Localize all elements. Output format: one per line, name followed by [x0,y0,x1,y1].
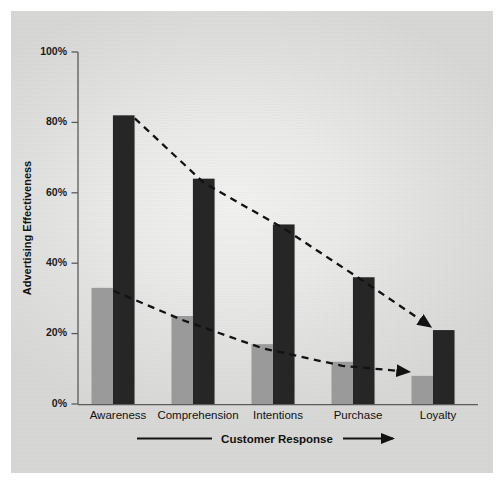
y-axis-title: Advertising Effectiveness [21,161,33,296]
bar-gray-loyalty [412,376,434,404]
x-category-labels: AwarenessComprehensionIntentionsPurchase… [90,409,457,421]
y-tick-label-80: 80% [46,115,68,127]
bar-dark-loyalty [433,330,455,404]
bar-dark-intentions [273,224,295,404]
bar-gray-awareness [92,288,114,404]
trend-lines-group [113,118,430,371]
y-tick-label-40: 40% [46,256,68,268]
bar-gray-purchase [332,362,354,404]
x-category-label-intentions: Intentions [253,409,303,421]
y-tick-label-100: 100% [40,45,68,57]
bar-gray-intentions [252,344,274,404]
y-axis: 100% 80% 60% 40% 20% 0% [40,45,78,409]
bar-dark-awareness [113,115,135,404]
x-category-label-loyalty: Loyalty [420,409,457,421]
x-category-label-purchase: Purchase [334,409,383,421]
x-category-label-comprehension: Comprehension [157,409,238,421]
bar-dark-purchase [353,277,375,404]
x-axis-title-group: Customer Response [137,433,393,445]
chart-plot-svg: 100% 80% 60% 40% 20% 0% AwarenessCompreh… [0,0,504,485]
x-category-label-awareness: Awareness [90,409,147,421]
y-axis-ticks [72,52,79,404]
bar-dark-comprehension [193,179,215,404]
bar-gray-comprehension [172,316,194,404]
y-tick-label-60: 60% [46,186,68,198]
y-tick-label-20: 20% [46,326,68,338]
bar-series-group [92,115,456,404]
x-axis-title: Customer Response [221,433,333,445]
chart-figure: 100% 80% 60% 40% 20% 0% AwarenessCompreh… [0,0,504,485]
y-tick-label-0: 0% [52,397,68,409]
